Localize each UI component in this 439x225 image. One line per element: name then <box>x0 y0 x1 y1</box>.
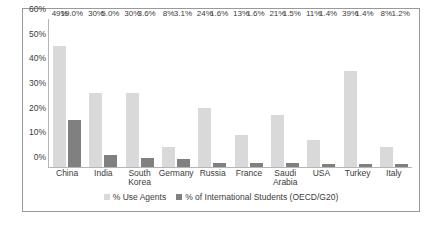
bar-column: 11% <box>307 19 320 167</box>
category-label: Russia <box>195 169 231 188</box>
category-axis-labels: ChinaIndiaSouth KoreaGermanyRussiaFrance… <box>49 169 412 188</box>
y-axis-tick-label: 60% <box>29 5 46 14</box>
bar-group: 30%3.6% <box>122 19 158 167</box>
bar-group: 24%1.6% <box>194 19 230 167</box>
legend-swatch-icon <box>176 194 182 200</box>
bar-column: 5.0% <box>104 19 117 167</box>
bar-group: 49%19.0% <box>49 19 85 167</box>
bar[interactable]: 39% <box>344 71 357 167</box>
category-label: USA <box>303 169 339 188</box>
bar[interactable]: 49% <box>53 46 66 167</box>
bar[interactable]: 5.0% <box>104 155 117 167</box>
bar-data-label: 1.4% <box>319 10 337 18</box>
bar-column: 1.4% <box>322 19 335 167</box>
category-label: France <box>231 169 267 188</box>
y-axis-tick-label: 10% <box>29 128 46 137</box>
legend-swatch-icon <box>104 194 110 200</box>
bar-column: 3.1% <box>177 19 190 167</box>
bar[interactable]: 8% <box>162 147 175 167</box>
bar[interactable]: 1.6% <box>213 163 226 167</box>
bar-column: 8% <box>162 19 175 167</box>
bar-groups: 49%19.0%30%5.0%30%3.6%8%3.1%24%1.6%13%1.… <box>49 19 412 167</box>
bar-data-label: 1.5% <box>283 10 301 18</box>
bar-group: 21%1.5% <box>267 19 303 167</box>
bar[interactable]: 1.4% <box>322 164 335 167</box>
category-label: Turkey <box>340 169 376 188</box>
y-axis: 60%50%40%30%20%10%0% <box>23 9 48 157</box>
bar[interactable]: 3.6% <box>141 158 154 167</box>
legend-label: % Use Agents <box>113 193 166 202</box>
legend-item[interactable]: % Use Agents <box>104 193 166 202</box>
bar-column: 1.5% <box>286 19 299 167</box>
bar-column: 24% <box>198 19 211 167</box>
bar[interactable]: 1.2% <box>395 164 408 167</box>
bar-column: 1.4% <box>359 19 372 167</box>
bar[interactable]: 11% <box>307 140 320 167</box>
y-axis-tick-label: 0% <box>34 153 46 162</box>
category-label: Italy <box>376 169 412 188</box>
bar-group: 13%1.6% <box>230 19 266 167</box>
bar-data-label: 8% <box>381 10 393 18</box>
bar-group: 39%1.4% <box>339 19 375 167</box>
bar[interactable]: 13% <box>235 135 248 167</box>
bar-data-label: 8% <box>163 10 175 18</box>
bar-column: 19.0% <box>68 19 81 167</box>
bar-data-label: 1.4% <box>355 10 373 18</box>
bar-data-label: 1.6% <box>246 10 264 18</box>
legend-label: % of International Students (OECD/G20) <box>185 193 338 202</box>
bar-group: 11%1.4% <box>303 19 339 167</box>
bar-column: 1.2% <box>395 19 408 167</box>
bar-column: 21% <box>271 19 284 167</box>
y-axis-tick-label: 30% <box>29 79 46 88</box>
bar[interactable]: 19.0% <box>68 120 81 167</box>
bar-data-label: 5.0% <box>101 10 119 18</box>
bar-group: 8%1.2% <box>376 19 412 167</box>
category-label: South Korea <box>121 169 157 188</box>
bar-data-label: 3.1% <box>174 10 192 18</box>
category-label: China <box>49 169 85 188</box>
bar-data-label: 1.6% <box>210 10 228 18</box>
bar-data-label: 3.6% <box>138 10 156 18</box>
bar-column: 49% <box>53 19 66 167</box>
legend-item[interactable]: % of International Students (OECD/G20) <box>176 193 338 202</box>
bar[interactable]: 21% <box>271 115 284 167</box>
y-axis-tick-label: 50% <box>29 29 46 38</box>
bar[interactable]: 3.1% <box>177 159 190 167</box>
bar-column: 13% <box>235 19 248 167</box>
chart-frame: 60%50%40%30%20%10%0% 49%19.0%30%5.0%30%3… <box>22 8 420 212</box>
bar-column: 1.6% <box>250 19 263 167</box>
bar-column: 30% <box>89 19 102 167</box>
bar[interactable]: 30% <box>126 93 139 167</box>
bar-data-label: 1.2% <box>392 10 410 18</box>
y-axis-tick-label: 40% <box>29 54 46 63</box>
bar-column: 8% <box>380 19 393 167</box>
bar-column: 1.6% <box>213 19 226 167</box>
category-label: Saudi Arabia <box>267 169 303 188</box>
bar-column: 30% <box>126 19 139 167</box>
bar[interactable]: 30% <box>89 93 102 167</box>
bar[interactable]: 1.6% <box>250 163 263 167</box>
bar-group: 30%5.0% <box>85 19 121 167</box>
category-label: India <box>85 169 121 188</box>
bar-column: 39% <box>344 19 357 167</box>
bar-data-label: 19.0% <box>60 10 83 18</box>
y-axis-tick-label: 20% <box>29 103 46 112</box>
category-label: Germany <box>158 169 195 188</box>
bar-column: 3.6% <box>141 19 154 167</box>
bar-group: 8%3.1% <box>158 19 194 167</box>
bar[interactable]: 24% <box>198 108 211 167</box>
chart-legend: % Use Agents% of International Students … <box>23 193 419 202</box>
bar[interactable]: 1.4% <box>359 164 372 167</box>
bar[interactable]: 8% <box>380 147 393 167</box>
bar[interactable]: 1.5% <box>286 163 299 167</box>
